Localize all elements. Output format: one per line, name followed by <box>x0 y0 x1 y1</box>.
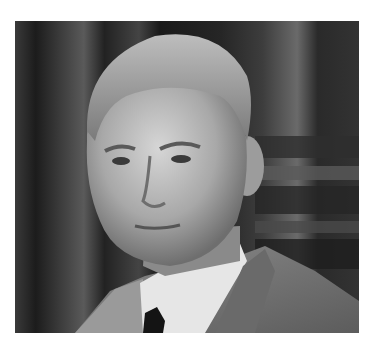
portrait-illustration <box>15 21 359 333</box>
right-eye <box>171 155 191 163</box>
left-eye <box>112 157 130 165</box>
portrait-photo: Black-and-white portrait photograph of a… <box>15 21 359 333</box>
